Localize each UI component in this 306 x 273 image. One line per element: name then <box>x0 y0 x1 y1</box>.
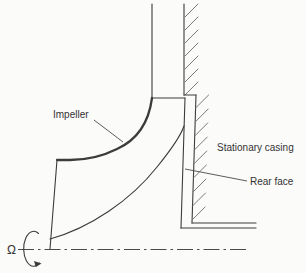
stationary-casing-label: Stationary casing <box>217 142 294 153</box>
diagram-canvas: Impeller Stationary casing Rear face Ω <box>0 0 306 273</box>
impeller-left-edge-line <box>50 160 57 249</box>
impeller-hub-curve <box>50 126 184 239</box>
rear-face-leader-line <box>185 169 247 181</box>
impeller-front-shroud-curve <box>57 98 152 160</box>
impeller-rear-face-line <box>181 98 185 228</box>
diagram-page: Impeller Stationary casing Rear face Ω <box>0 0 306 273</box>
rear-face-label: Rear face <box>250 176 294 187</box>
rotation-arrow-arc <box>24 231 40 266</box>
impeller-leader-line <box>94 120 123 142</box>
casing-upper-hatching <box>185 4 198 95</box>
rotation-omega-symbol: Ω <box>7 243 16 257</box>
impeller-label: Impeller <box>53 109 89 120</box>
